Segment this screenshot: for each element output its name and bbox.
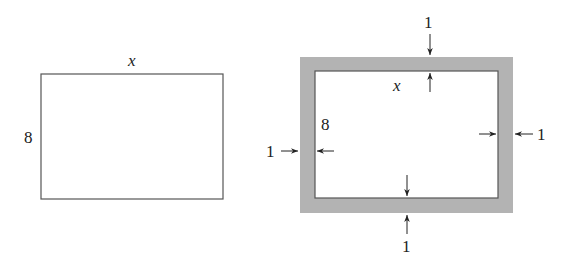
right-bordered-figure: x 8 1 1 1 1 [266,13,546,256]
left-border-label: 1 [266,142,275,161]
left-height-label: 8 [24,128,33,147]
top-border-label: 1 [424,13,433,32]
diagram-canvas: x 8 x 8 1 1 1 1 [0,0,576,272]
left-width-label: x [127,51,136,70]
right-border-label: 1 [537,125,546,144]
left-rectangle [41,74,223,199]
left-rectangle-figure: x 8 [24,51,223,199]
inner-width-label: x [392,76,401,95]
inner-height-label: 8 [321,115,330,134]
bottom-border-label: 1 [402,237,411,256]
